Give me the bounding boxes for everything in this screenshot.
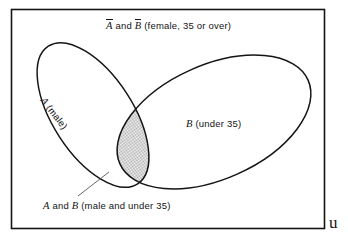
set-b-symbol: B (186, 118, 193, 129)
complement-description: (female, 35 or over) (141, 20, 231, 31)
venn-diagram: A and B (female, 35 or over) A (male) B … (0, 0, 348, 244)
intersection-description: (male and under 35) (78, 200, 170, 211)
intersection-leader-line (78, 172, 109, 196)
label-complement-region: A and B (female, 35 or over) (106, 19, 231, 31)
intersection-conjunction: and (50, 200, 72, 211)
intersection-a-symbol: A (43, 200, 50, 211)
label-set-b: B (under 35) (186, 118, 241, 130)
universe-label: u (329, 214, 338, 231)
complement-conjunction: and (113, 20, 135, 31)
set-a-ellipse (15, 24, 171, 205)
label-intersection-region: A and B (male and under 35) (43, 200, 171, 212)
set-b-description: (under 35) (193, 118, 242, 129)
complement-a-symbol: A (106, 19, 113, 31)
